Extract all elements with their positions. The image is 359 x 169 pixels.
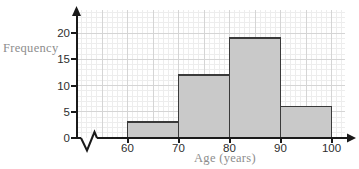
y-axis-arrow-icon	[72, 6, 81, 16]
histogram-bar	[128, 122, 179, 138]
x-axis-arrow-icon	[347, 134, 356, 143]
y-tick-label: 20	[57, 27, 70, 39]
histogram-bar	[230, 38, 281, 138]
histogram-figure: Frequency 0510152060708090100 Age (years…	[0, 0, 359, 169]
x-tick-label: 100	[322, 142, 341, 154]
y-tick-label: 5	[64, 106, 70, 118]
x-tick-label: 60	[121, 142, 134, 154]
histogram-chart: 0510152060708090100	[0, 0, 359, 169]
histogram-bar	[281, 107, 332, 139]
y-tick-label: 15	[57, 53, 70, 65]
y-tick-label: 10	[57, 80, 70, 92]
x-axis-label: Age (years)	[170, 152, 280, 165]
histogram-bar	[179, 75, 230, 138]
x-axis-break-icon	[81, 132, 97, 151]
y-tick-label: 0	[64, 132, 70, 144]
